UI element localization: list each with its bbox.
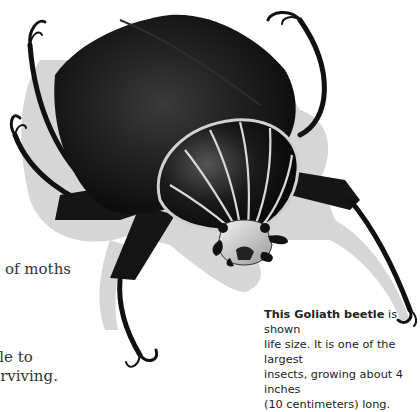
body-text-fragment: t surviving. xyxy=(0,366,58,386)
caption-text: life size. It is one of the largest xyxy=(264,338,395,366)
caption-text: insects, growing about 4 inches xyxy=(264,368,403,396)
figure-caption: This Goliath beetle is shown life size. … xyxy=(264,307,420,412)
caption-text: (10 centimeters) long. xyxy=(264,398,390,411)
body-text-fragment: of moths xyxy=(5,259,71,279)
caption-lead: This Goliath beetle xyxy=(264,308,384,321)
body-text-fragment: ggle to xyxy=(0,347,33,367)
